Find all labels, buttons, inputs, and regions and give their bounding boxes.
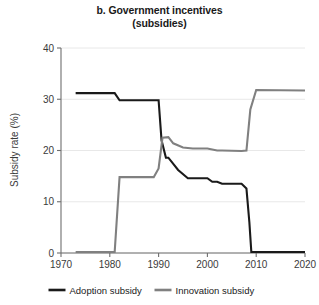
y-axis-label: Subsidy rate (%)	[9, 113, 20, 187]
x-tick-labels: 197019801990200020102020	[50, 259, 317, 270]
chart-title-line-2: (subsidies)	[0, 17, 319, 30]
y-tick-label-10: 10	[43, 196, 55, 207]
x-tick-label-1970: 1970	[50, 259, 73, 270]
legend-item-adoption-subsidy[interactable]: Adoption subsidy	[49, 285, 143, 296]
x-tick-label-2000: 2000	[196, 259, 219, 270]
y-tick-marks	[57, 48, 61, 253]
y-tick-labels: 010203040	[43, 43, 55, 259]
gridlines	[61, 48, 305, 253]
series-lines	[76, 90, 305, 252]
series-line-adoption-subsidy	[76, 93, 305, 252]
x-tick-marks	[61, 253, 305, 257]
x-tick-label-1990: 1990	[147, 259, 170, 270]
legend-label: Adoption subsidy	[70, 285, 143, 296]
chart-title-line-1: b. Government incentives	[0, 4, 319, 17]
chart-legend: Adoption subsidyInnovation subsidy	[49, 285, 255, 296]
y-tick-label-0: 0	[48, 248, 54, 259]
y-tick-label-30: 30	[43, 94, 55, 105]
line-chart-plot: 010203040 197019801990200020102020 Subsi…	[0, 0, 319, 305]
x-tick-label-1980: 1980	[99, 259, 122, 270]
series-line-innovation-subsidy	[76, 90, 305, 252]
legend-label: Innovation subsidy	[176, 285, 255, 296]
chart-title: b. Government incentives (subsidies)	[0, 4, 319, 30]
y-tick-label-20: 20	[43, 145, 55, 156]
y-tick-label-40: 40	[43, 43, 55, 54]
x-tick-label-2010: 2010	[245, 259, 268, 270]
legend-item-innovation-subsidy[interactable]: Innovation subsidy	[155, 285, 255, 296]
x-tick-label-2020: 2020	[294, 259, 317, 270]
chart-figure: b. Government incentives (subsidies) 010…	[0, 0, 319, 305]
